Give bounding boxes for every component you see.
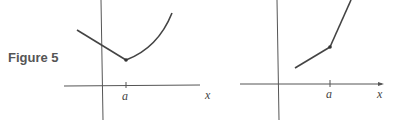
right-x-arrow-icon	[378, 82, 384, 86]
left-tick-label: a	[122, 89, 128, 103]
left-x-axis	[64, 85, 200, 86]
left-y-axis	[101, 0, 103, 120]
right-tick-label: a	[326, 87, 332, 101]
left-corner-point	[124, 58, 128, 62]
figure: Figure 5 a x a x	[0, 0, 401, 126]
right-y-axis	[277, 0, 279, 120]
right-linear-piece-left	[295, 47, 330, 68]
figure-caption: Figure 5	[8, 50, 59, 65]
right-panel: a x	[240, 0, 384, 120]
left-panel: a x	[64, 0, 211, 120]
left-x-label: x	[204, 88, 211, 102]
right-x-label: x	[376, 87, 383, 101]
left-curved-piece	[126, 13, 172, 60]
right-corner-point	[328, 45, 332, 49]
right-linear-piece-right	[330, 0, 351, 47]
